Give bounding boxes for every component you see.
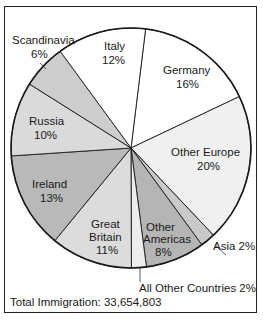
label-ireland-name: Ireland bbox=[32, 178, 67, 190]
label-russia-name: Russia bbox=[29, 115, 65, 127]
label-germany-pct: 16% bbox=[176, 78, 199, 90]
label-italy-pct: 12% bbox=[102, 54, 125, 66]
label-germany-name: Germany bbox=[163, 64, 211, 76]
label-gb-line2: Britain bbox=[89, 231, 122, 243]
label-gb-line1: Great bbox=[91, 218, 121, 230]
label-other-europe-pct: 20% bbox=[197, 160, 220, 172]
label-scandinavia-name: Scandinavia bbox=[12, 34, 75, 46]
label-ireland-pct: 13% bbox=[40, 192, 63, 204]
label-gb-pct: 11% bbox=[96, 244, 118, 256]
label-oa-line2: Americas bbox=[143, 233, 191, 245]
label-all-other: All Other Countries 2% bbox=[139, 282, 256, 294]
label-italy-name: Italy bbox=[104, 40, 125, 52]
label-other-europe-name: Other Europe bbox=[171, 146, 240, 158]
label-oa-line1: Other bbox=[146, 221, 175, 233]
total-immigration: Total Immigration: 33,654,803 bbox=[10, 296, 162, 308]
label-russia-pct: 10% bbox=[34, 129, 57, 141]
label-scandinavia-pct: 6% bbox=[31, 48, 48, 60]
label-asia: Asia 2% bbox=[213, 240, 255, 252]
pie-chart: Scandinavia 6% Italy 12% Germany 16% Rus… bbox=[0, 0, 263, 320]
label-oa-pct: 8% bbox=[155, 246, 172, 258]
